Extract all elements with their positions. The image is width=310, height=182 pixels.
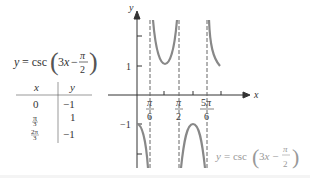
svg-text:= csc: = csc	[224, 150, 247, 162]
values-table: x y 0−1 π3 1 2π3 −1	[16, 81, 92, 143]
svg-text:= csc: = csc	[22, 55, 47, 69]
svg-text:y: y	[69, 81, 75, 93]
svg-text:y: y	[128, 2, 134, 13]
svg-text:): )	[292, 144, 299, 169]
svg-text:x: x	[33, 81, 39, 93]
svg-text:): )	[89, 47, 98, 76]
svg-text:π: π	[80, 50, 86, 61]
svg-text:x: x	[63, 55, 70, 69]
svg-text:π: π	[283, 144, 288, 154]
svg-text:1: 1	[70, 111, 76, 123]
svg-text:0: 0	[33, 98, 39, 110]
svg-text:−1: −1	[120, 119, 131, 130]
csc-graph: y = csc ( 3x − π 2 ) x y 0−1 π3 1 2π3 −1	[0, 0, 310, 182]
svg-text:2: 2	[283, 159, 288, 169]
svg-text:−: −	[71, 55, 78, 69]
svg-text:x: x	[253, 89, 259, 100]
bottom-band	[0, 175, 310, 178]
svg-text:3x −: 3x −	[259, 150, 278, 162]
svg-text:−1: −1	[63, 98, 75, 110]
svg-text:1: 1	[126, 61, 131, 72]
svg-text:3: 3	[33, 120, 37, 128]
svg-text:2: 2	[80, 64, 85, 75]
left-equation: y = csc ( 3x − π 2 )	[13, 47, 98, 76]
svg-text:−1: −1	[63, 128, 75, 140]
graph-annotation: y = csc ( 3x − π 2 )	[215, 144, 299, 169]
svg-text:y: y	[13, 55, 20, 69]
svg-text:y: y	[215, 150, 221, 162]
